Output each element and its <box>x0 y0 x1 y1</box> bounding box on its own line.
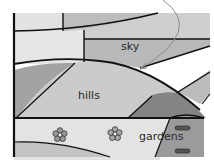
label-gardens: gardens <box>139 130 184 143</box>
garden-map-diagram: sky hills gardens <box>0 0 214 168</box>
label-sky: sky <box>121 40 140 53</box>
pill-marker-icon <box>175 126 190 130</box>
label-hills: hills <box>78 89 100 102</box>
pill-marker-icon <box>175 149 190 153</box>
